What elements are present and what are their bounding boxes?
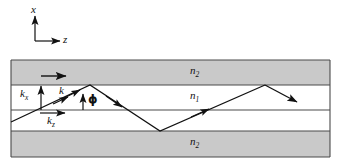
n1-core-sub: 1 (196, 95, 200, 104)
kx-sub: x (25, 93, 28, 102)
diagram-canvas (0, 0, 342, 166)
angle-label-phi: ϕ (88, 93, 98, 105)
refractive-index-label-n2-bottom: n2 (190, 136, 199, 150)
layer-cladding-top (11, 60, 330, 85)
wavevector-label-k: k (59, 85, 64, 96)
k-base: k (59, 84, 64, 96)
waveguide-layers (11, 60, 330, 157)
refractive-index-label-n2-top: n2 (190, 65, 199, 79)
wavevector-label-kx: kx (20, 88, 28, 102)
refractive-index-label-n1-core: n1 (190, 90, 199, 104)
n2-bottom-sub: 2 (196, 141, 200, 150)
axis-label-z: z (63, 34, 67, 45)
waveguide-diagram: x z n2 n1 n2 kx k kz ϕ (0, 0, 342, 166)
wavevector-label-kz: kz (47, 115, 55, 129)
coordinate-axes (35, 16, 60, 41)
layer-cladding-bottom (11, 131, 330, 157)
n2-top-sub: 2 (196, 70, 200, 79)
kz-sub: z (52, 120, 55, 129)
axis-label-x: x (31, 4, 36, 15)
